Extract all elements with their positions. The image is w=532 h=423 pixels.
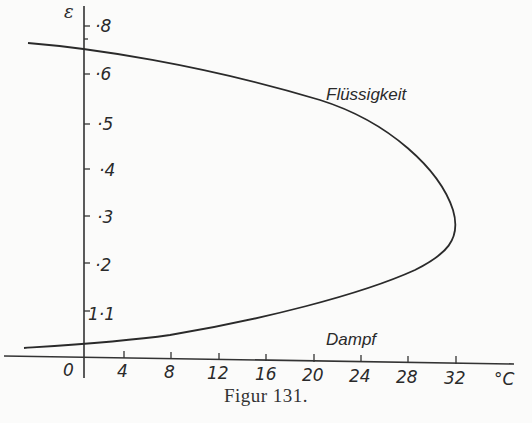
x-tick-label: 8 bbox=[164, 362, 175, 382]
y-ticks bbox=[84, 26, 90, 311]
chart-canvas: ·8 ·6 ·5 ·4 ·3 ·2 1·1 0 4 8 12 16 20 24 … bbox=[0, 0, 532, 423]
x-tick-label: 12 bbox=[207, 363, 229, 383]
series-label-liquid: Flüssigkeit bbox=[326, 85, 408, 104]
x-tick-label: 16 bbox=[255, 364, 277, 384]
x-tick-label: 4 bbox=[117, 361, 128, 381]
x-tick-label: 20 bbox=[302, 365, 324, 385]
x-axis bbox=[4, 356, 514, 364]
y-tick-label: ·3 bbox=[97, 207, 113, 227]
y-tick-label: ·5 bbox=[97, 114, 113, 134]
y-axis-label: ε bbox=[64, 1, 74, 22]
y-tick-label: ·6 bbox=[95, 64, 111, 84]
y-tick-label: ·8 bbox=[95, 16, 111, 36]
y-tick-label: ·4 bbox=[99, 160, 115, 180]
y-tick-label: ·2 bbox=[95, 255, 111, 275]
x-tick-label: 24 bbox=[349, 366, 371, 386]
x-tick-label: 28 bbox=[396, 367, 418, 387]
series-label-vapor: Dampf bbox=[326, 330, 378, 349]
figure-caption: Figur 131. bbox=[0, 385, 532, 407]
y-tick-label: 1·1 bbox=[88, 304, 115, 324]
x-tick-label: 0 bbox=[63, 360, 74, 380]
